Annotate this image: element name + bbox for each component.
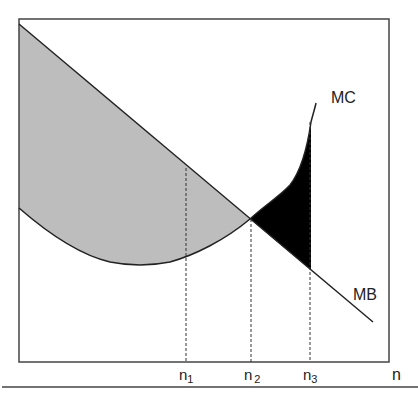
mc-label: MC: [331, 89, 356, 106]
n3-label: n3: [303, 366, 317, 385]
mb-label: MB: [353, 286, 377, 303]
net-benefit-area: [19, 24, 250, 265]
x-axis-label: n: [392, 366, 401, 383]
n1-label: n1: [179, 366, 193, 385]
n2-label: n2: [244, 366, 260, 385]
deadweight-loss-area: [250, 122, 311, 270]
marginal-cost-benefit-diagram: MC MB n1 n2 n3 n: [0, 0, 418, 395]
